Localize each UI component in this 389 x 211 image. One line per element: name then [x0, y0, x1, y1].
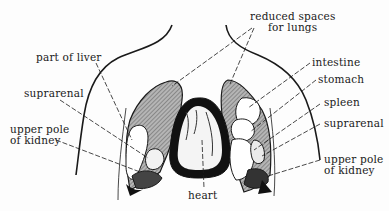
anatomy-diagram: part of liver suprarenal upper pole of k…: [0, 0, 389, 211]
label-suprarenal-left: suprarenal: [24, 88, 84, 99]
label-reduced-spaces-2: for lungs: [268, 22, 317, 33]
label-heart: heart: [188, 190, 217, 201]
label-upper-pole-right-2: of kidney: [324, 165, 375, 176]
stomach: [231, 119, 254, 142]
leader-reduced-spaces-a: [172, 28, 252, 86]
label-suprarenal-right: suprarenal: [324, 118, 384, 129]
leader-part-of-liver: [96, 63, 132, 140]
label-spleen: spleen: [324, 97, 360, 108]
label-upper-pole-left-2: of kidney: [10, 135, 61, 146]
left-kidney-pole: [132, 171, 162, 189]
leader-upper-pole-right: [268, 160, 320, 176]
leader-suprarenal-right: [262, 124, 320, 156]
label-part-of-liver: part of liver: [36, 52, 102, 63]
label-stomach: stomach: [318, 74, 364, 85]
leader-intestine: [248, 63, 310, 108]
label-intestine: intestine: [312, 57, 360, 68]
leader-reduced-spaces-b: [230, 28, 254, 84]
